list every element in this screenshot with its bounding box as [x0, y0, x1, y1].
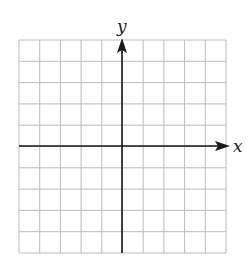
x-axis-label: x [233, 136, 243, 156]
y-axis-label: y [116, 16, 127, 36]
x-axis [19, 141, 230, 151]
coordinate-plane: x y [0, 0, 249, 270]
